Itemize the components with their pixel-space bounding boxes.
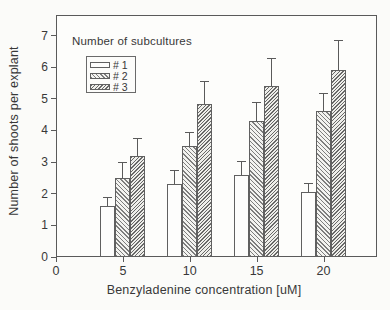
bar-s1-x20 [301,192,316,257]
error-bar-cap [267,58,276,59]
error-bar-line [204,81,205,103]
error-bar-cap [185,132,194,133]
x-tick-mark [123,257,124,262]
bar-s3-x15 [264,86,279,257]
x-tick-label: 20 [309,264,339,278]
error-bar-line [107,197,108,206]
error-bar-cap [237,161,246,162]
y-tick-mark [51,225,56,226]
y-tick-label: 6 [24,60,48,74]
bar-s1-x5 [100,206,115,257]
legend-entry-3: # 3 [90,82,135,92]
y-tick-label: 4 [24,123,48,137]
y-tick-label: 0 [24,250,48,264]
x-tick-label: 0 [41,264,71,278]
y-axis-title: Number of shoots per explant [6,10,22,252]
error-bar-cap [319,93,328,94]
error-bar-cap [334,40,343,41]
x-tick-mark [257,257,258,262]
error-bar-cap [252,102,261,103]
error-bar-line [122,162,123,178]
legend-swatch-2 [90,73,110,79]
x-tick-mark [324,257,325,262]
error-bar-line [189,132,190,146]
error-bar-cap [200,81,209,82]
bar-s1-x15 [234,175,249,257]
bar-s3-x10 [197,104,212,257]
y-tick-label: 5 [24,92,48,106]
legend-swatch-3 [90,84,110,90]
x-tick-label: 10 [175,264,205,278]
legend-swatch-1 [90,62,110,68]
error-bar-line [323,93,324,112]
x-tick-label: 15 [242,264,272,278]
legend-entry-1: # 1 [90,60,135,70]
y-tick-mark [51,130,56,131]
error-bar-line [137,138,138,155]
y-tick-mark [51,35,56,36]
error-bar-cap [103,197,112,198]
x-tick-mark [56,257,57,262]
y-tick-mark [51,193,56,194]
x-axis-title: Benzyladenine concentration [uM] [44,283,364,298]
y-tick-label: 3 [24,155,48,169]
bar-s2-x20 [316,111,331,257]
bar-s2-x5 [115,178,130,257]
bar-s2-x15 [249,121,264,257]
y-tick-label: 2 [24,187,48,201]
error-bar-line [174,170,175,184]
y-tick-mark [51,98,56,99]
legend-entry-label: # 1 [113,60,128,70]
y-tick-label: 1 [24,218,48,232]
y-tick-label: 7 [24,29,48,43]
x-tick-label: 5 [108,264,138,278]
legend-entry-2: # 2 [90,71,135,81]
legend-title: Number of subcultures [72,35,252,49]
legend-entry-label: # 2 [113,71,128,81]
figure: Number of shoots per explant Benzyladeni… [0,0,390,310]
error-bar-cap [304,183,313,184]
bar-s2-x10 [182,146,197,257]
x-tick-mark [190,257,191,262]
bar-s3-x20 [331,70,346,257]
legend-box: # 1# 2# 3 [86,56,136,93]
error-bar-line [338,40,339,70]
error-bar-line [271,58,272,86]
bar-s1-x10 [167,184,182,257]
error-bar-line [308,183,309,192]
error-bar-cap [118,162,127,163]
error-bar-line [256,102,257,121]
y-tick-mark [51,162,56,163]
error-bar-line [241,161,242,175]
error-bar-cap [133,138,142,139]
error-bar-cap [170,170,179,171]
bar-s3-x5 [130,156,145,257]
y-tick-mark [51,67,56,68]
legend-entry-label: # 3 [113,82,128,92]
